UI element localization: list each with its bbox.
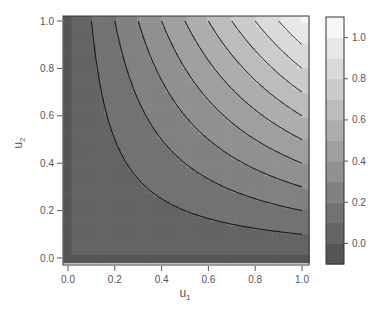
x-tick-label: 0.6 <box>201 274 215 285</box>
y-tick-label: 0.0 <box>40 253 54 264</box>
x-tick-label: 0.4 <box>155 274 169 285</box>
colorbar-tick-label: 1.0 <box>352 32 366 43</box>
colorbar-tick-label: 0.0 <box>352 238 366 249</box>
y-axis-label: u2 <box>11 137 27 149</box>
colorbar-tick-label: 0.4 <box>352 156 366 167</box>
colorbar-legend: 0.00.20.40.60.81.0 <box>326 17 366 265</box>
contour-chart: 0.00.20.40.60.81.0 0.00.20.40.60.81.0 u1… <box>0 0 379 318</box>
y-tick-label: 0.4 <box>40 158 54 169</box>
x-tick-label: 1.0 <box>295 274 309 285</box>
x-axis-label: u1 <box>179 286 191 302</box>
filled-contour-area <box>63 16 309 263</box>
x-tick-label: 0.2 <box>108 274 122 285</box>
colorbar-tick-label: 0.8 <box>352 73 366 84</box>
colorbar-tick-label: 0.2 <box>352 197 366 208</box>
y-tick-label: 0.8 <box>40 63 54 74</box>
x-axis: 0.00.20.40.60.81.0 <box>61 266 309 285</box>
y-axis: 0.00.20.40.60.81.0 <box>40 16 62 264</box>
y-tick-label: 1.0 <box>40 16 54 27</box>
colorbar-tick-label: 0.6 <box>352 114 366 125</box>
y-tick-label: 0.6 <box>40 110 54 121</box>
x-tick-label: 0.0 <box>61 274 75 285</box>
y-tick-label: 0.2 <box>40 205 54 216</box>
x-tick-label: 0.8 <box>248 274 262 285</box>
